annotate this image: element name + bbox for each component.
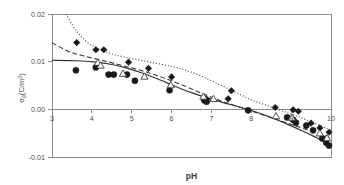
plot-canvas: 345678910 -0.010.000.010.02 pH σ0(C/m2) [0, 0, 344, 185]
data-point-circle [303, 122, 309, 128]
fit-dashed [52, 43, 331, 138]
data-point-diamond [225, 96, 232, 103]
x-tick-label: 4 [90, 114, 94, 123]
fit-curves [52, 14, 331, 145]
data-point-diamond [168, 74, 175, 81]
data-point-triangle [167, 82, 174, 88]
x-tick-label: 8 [249, 114, 253, 123]
svg-text:σ0(C/m2): σ0(C/m2) [17, 73, 27, 103]
y-tick-marks [48, 14, 52, 157]
data-point-triangle [141, 73, 148, 79]
x-tick-label: 10 [327, 114, 335, 123]
data-point-diamond [228, 87, 235, 94]
x-tick-label: 3 [50, 114, 54, 123]
y-axis-unit-open: (C/m [17, 79, 26, 95]
data-point-triangle [316, 130, 323, 136]
y-tick-label: 0.02 [31, 10, 45, 19]
y-tick-label: -0.01 [29, 153, 45, 162]
data-point-diamond [101, 46, 108, 53]
data-point-circle [326, 142, 332, 148]
data-series [73, 39, 332, 148]
x-tick-label: 9 [289, 114, 293, 123]
x-tick-label: 5 [130, 114, 134, 123]
data-point-diamond [73, 39, 80, 46]
x-tick-label: 7 [209, 114, 213, 123]
data-point-diamond [125, 59, 132, 66]
fit-solid [52, 60, 331, 144]
data-point-circle [245, 107, 251, 113]
data-point-diamond [93, 46, 100, 53]
x-tick-labels: 345678910 [50, 114, 335, 123]
y-tick-label: 0.01 [31, 57, 45, 66]
data-point-circle [132, 78, 138, 84]
x-tick-marks [52, 109, 331, 113]
y-axis-title: σ0(C/m2) [17, 73, 27, 103]
y-axis-unit-close: ) [17, 73, 26, 76]
y-tick-label: 0.00 [31, 105, 45, 114]
x-tick-label: 6 [170, 114, 174, 123]
frame-border [52, 14, 331, 157]
data-point-circle [310, 127, 316, 133]
chart-figure: 345678910 -0.010.000.010.02 pH σ0(C/m2) [0, 0, 344, 185]
series-triangle [94, 59, 330, 141]
plot-frame [52, 14, 331, 157]
x-axis-title: pH [186, 171, 197, 181]
data-point-triangle [272, 113, 279, 119]
data-point-circle [111, 71, 117, 77]
data-point-diamond [145, 65, 152, 72]
y-tick-labels: -0.010.000.010.02 [29, 10, 45, 162]
data-point-circle [73, 67, 79, 73]
